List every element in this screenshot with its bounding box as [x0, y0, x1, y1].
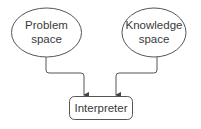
knowledge-space-label-line1: Knowledge	[126, 19, 183, 31]
diagram-canvas: Problem space Knowledge space Interprete…	[0, 0, 201, 129]
edge-problem-to-interpreter	[46, 57, 84, 95]
node-interpreter: Interpreter	[70, 97, 133, 120]
problem-space-label-line2: space	[31, 33, 62, 45]
node-problem-space: Problem space	[12, 8, 82, 57]
node-knowledge-space: Knowledge space	[122, 8, 186, 57]
problem-space-label-line1: Problem	[25, 19, 68, 31]
knowledge-space-label-line2: space	[139, 33, 170, 45]
edge-knowledge-to-interpreter	[116, 57, 157, 95]
interpreter-label: Interpreter	[74, 102, 127, 114]
